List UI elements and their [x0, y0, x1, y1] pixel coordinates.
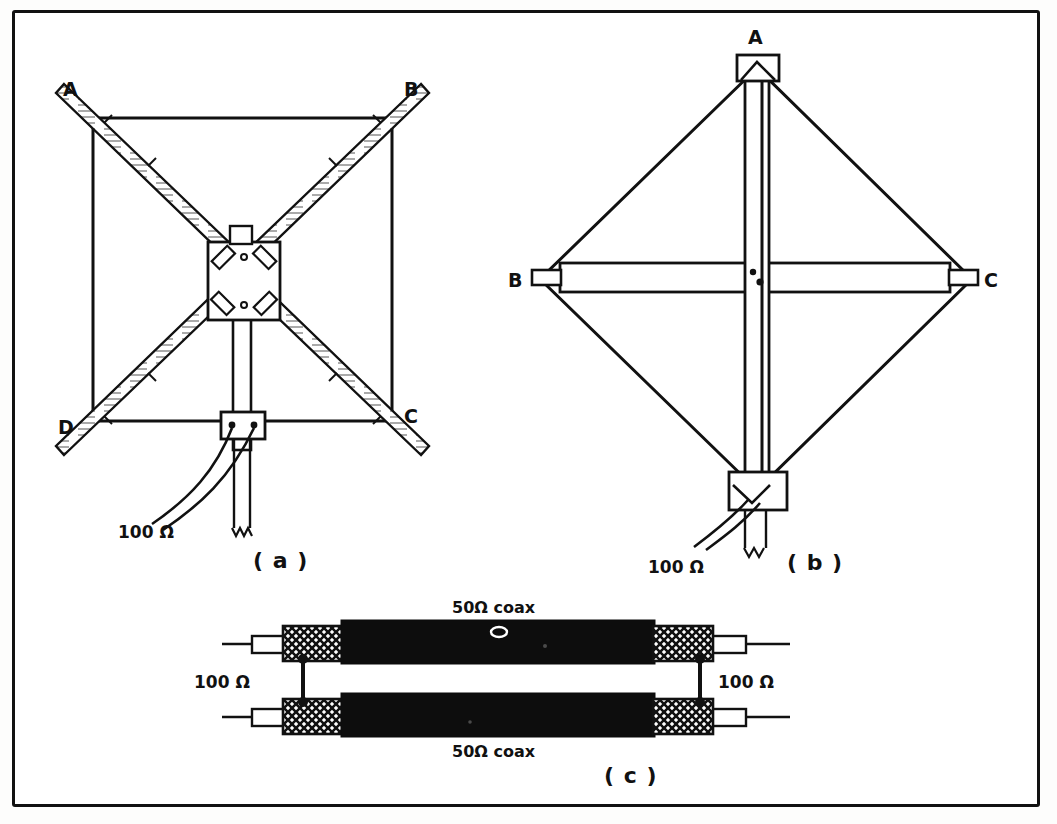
caption-panel-c: ( c ): [604, 763, 657, 788]
panel-b: A B C 100 Ω ( b ): [508, 26, 998, 577]
caption-panel-a: ( a ): [253, 548, 308, 573]
spreader-arm-a-upper-right: [249, 84, 429, 258]
label-b-impedance: 100 Ω: [648, 557, 704, 577]
label-b-node-c: C: [984, 269, 998, 291]
panel-c: 50Ω coax 50Ω coax 100 Ω 100 Ω ( c ): [194, 598, 790, 788]
label-a-node-a: A: [63, 78, 78, 100]
antenna-diagram-svg: A B C D 100 Ω ( a ): [0, 0, 1057, 824]
label-a-node-c: C: [404, 405, 418, 427]
caption-panel-b: ( b ): [787, 550, 843, 575]
label-c-impedance-right: 100 Ω: [718, 672, 774, 692]
spreader-arm-a-upper-left: [56, 84, 236, 258]
label-a-node-b: B: [404, 78, 418, 100]
label-a-node-d: D: [58, 416, 74, 438]
label-c-coax-top: 50Ω coax: [452, 598, 536, 617]
label-a-impedance: 100 Ω: [118, 522, 174, 542]
diagram-page: A B C D 100 Ω ( a ): [0, 0, 1057, 824]
apex-box-b: [737, 55, 779, 81]
label-c-coax-bottom: 50Ω coax: [452, 742, 536, 761]
mast-lower-a: [232, 439, 252, 536]
label-b-node-a: A: [748, 26, 763, 48]
label-b-node-b: B: [508, 269, 522, 291]
label-c-impedance-left: 100 Ω: [194, 672, 250, 692]
panel-a: A B C D 100 Ω ( a ): [56, 78, 429, 573]
feed-box-a: [221, 412, 265, 439]
